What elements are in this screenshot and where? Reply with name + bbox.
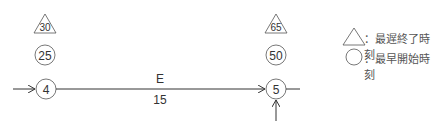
node-5-latest-finish-triangle: 65 (265, 14, 287, 33)
legend-item-earliest-start: ：最早開始時刻 (364, 50, 434, 82)
node-5-label: 5 (273, 83, 280, 97)
node-4: 4 (36, 79, 56, 99)
activity-e-name: E (156, 72, 164, 86)
node-4-earliest-start-value: 25 (38, 49, 52, 63)
node-4-earliest-start-circle: 25 (35, 45, 55, 65)
legend-circle-icon (346, 49, 362, 65)
node-5-earliest-start-value: 50 (269, 49, 283, 63)
legend-triangle-icon (343, 28, 365, 45)
legend-earliest-start-label: ：最早開始時刻 (364, 50, 434, 82)
node-4-latest-finish-triangle: 30 (34, 14, 56, 33)
activity-e-duration: 15 (153, 93, 167, 107)
node-5: 5 (266, 79, 286, 99)
node-4-label: 4 (43, 83, 50, 97)
node-5-latest-finish-value: 65 (270, 22, 282, 33)
node-5-earliest-start-circle: 50 (266, 45, 286, 65)
node-4-latest-finish-value: 30 (39, 22, 51, 33)
